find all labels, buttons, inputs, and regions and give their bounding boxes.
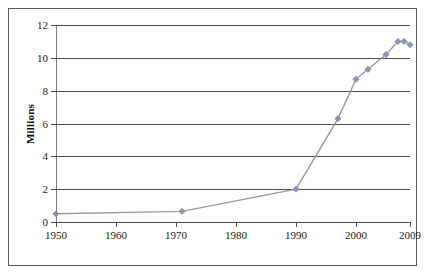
x-tick-mark-2000 (356, 222, 357, 227)
data-point-marker (293, 186, 299, 192)
x-tick-mark-1980 (236, 222, 237, 227)
x-tick-label-1960: 1960 (105, 229, 127, 241)
y-axis-title: Millions (22, 25, 38, 222)
y-tick-label: 10 (37, 52, 48, 64)
x-axis-ticks: 1950196019701980199020002009 (56, 222, 410, 252)
x-tick-label-2000: 2000 (345, 229, 367, 241)
x-tick-label-1990: 1990 (285, 229, 307, 241)
x-tick-mark-1960 (116, 222, 117, 227)
y-tick-label: 4 (43, 150, 49, 162)
x-tick-label-1980: 1980 (225, 229, 247, 241)
data-point-marker (179, 208, 185, 214)
y-tick-label: 2 (43, 183, 49, 195)
y-tick-label: 0 (43, 216, 49, 228)
x-tick-mark-2009 (410, 222, 411, 227)
data-point-marker (335, 115, 341, 121)
y-tick-label: 8 (43, 85, 49, 97)
data-point-marker (401, 38, 407, 44)
x-tick-label-2009: 2009 (399, 229, 421, 241)
x-tick-mark-1970 (176, 222, 177, 227)
y-tick-label: 6 (43, 118, 49, 130)
chart-container: Millions 024681012 195019601970198019902… (0, 0, 426, 278)
x-tick-mark-1990 (296, 222, 297, 227)
series-line-0 (56, 41, 410, 213)
plot-area: 024681012 (56, 25, 410, 222)
y-tick-label: 12 (37, 19, 48, 31)
series-line-chart (56, 25, 410, 222)
x-tick-label-1950: 1950 (45, 229, 67, 241)
y-axis-title-text: Millions (24, 103, 36, 143)
x-tick-mark-1950 (56, 222, 57, 227)
x-tick-label-1970: 1970 (165, 229, 187, 241)
